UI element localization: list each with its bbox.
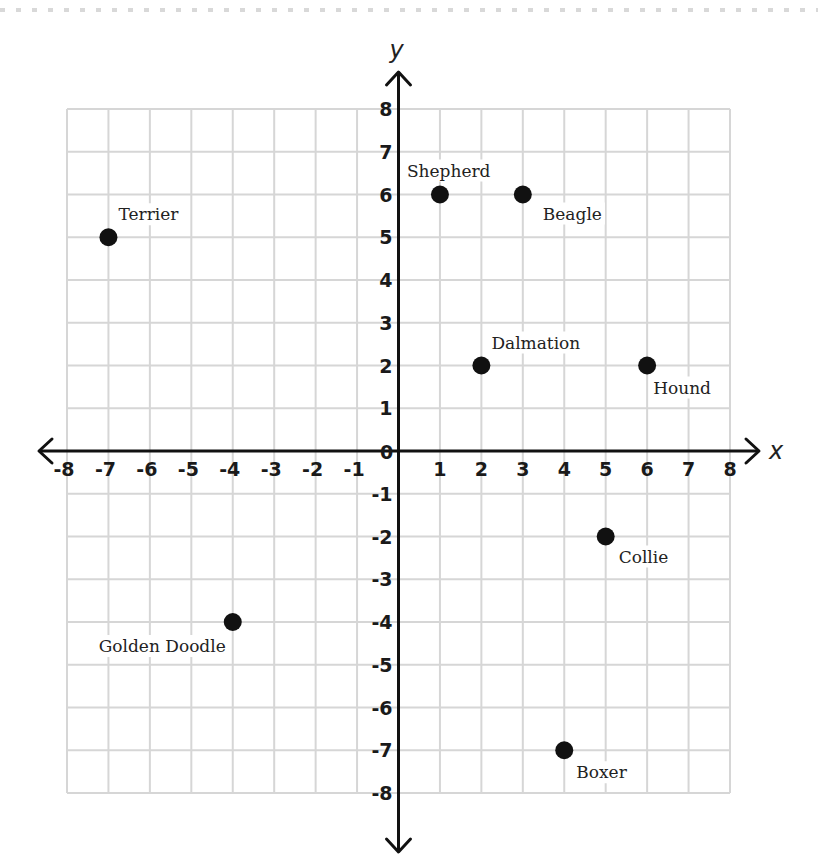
- x-tick-label: -6: [136, 458, 157, 480]
- x-tick-label: -4: [219, 458, 240, 480]
- y-tick-label: -1: [371, 483, 392, 505]
- y-tick-label: 8: [379, 98, 392, 120]
- x-tick-label: 7: [682, 458, 695, 480]
- y-tick-label: -6: [371, 697, 392, 719]
- point-label: Golden Doodle: [99, 636, 226, 656]
- y-tick-label: -2: [371, 526, 392, 548]
- origin-label: 0: [380, 441, 393, 463]
- y-tick-label: 2: [379, 355, 392, 377]
- y-tick-label: -4: [371, 611, 392, 633]
- x-tick-label: -8: [53, 458, 74, 480]
- x-tick-label: -3: [261, 458, 282, 480]
- data-point: [431, 186, 449, 204]
- x-tick-label: 3: [516, 458, 529, 480]
- y-tick-label: -7: [371, 739, 392, 761]
- y-tick-label: 6: [379, 184, 392, 206]
- y-tick-label: -3: [371, 568, 392, 590]
- data-point: [555, 741, 573, 759]
- data-point: [472, 357, 490, 375]
- y-tick-label: 7: [379, 141, 392, 163]
- x-tick-label: -5: [178, 458, 199, 480]
- coordinate-plane: yx-8-7-6-5-4-3-2-101234567887654321-1-2-…: [0, 0, 818, 860]
- point-label: Terrier: [118, 204, 179, 224]
- point-label: Beagle: [543, 204, 602, 224]
- x-axis-label: x: [768, 437, 784, 465]
- point-label: Shepherd: [407, 161, 491, 181]
- data-point: [597, 528, 615, 546]
- x-tick-label: 5: [599, 458, 612, 480]
- data-point: [638, 357, 656, 375]
- x-tick-label: -7: [95, 458, 116, 480]
- data-point: [224, 613, 242, 631]
- y-tick-label: -8: [371, 782, 392, 804]
- y-tick-label: 4: [379, 269, 392, 291]
- point-label: Hound: [653, 378, 711, 398]
- x-tick-label: 1: [433, 458, 446, 480]
- point-label: Collie: [619, 547, 669, 567]
- x-tick-label: -2: [302, 458, 323, 480]
- data-point: [99, 228, 117, 246]
- y-axis-label: y: [388, 36, 404, 64]
- data-point: [514, 186, 532, 204]
- y-tick-label: -5: [371, 654, 392, 676]
- point-label: Boxer: [576, 762, 627, 782]
- y-tick-label: 1: [379, 397, 392, 419]
- x-tick-label: 2: [475, 458, 488, 480]
- point-label: Dalmation: [491, 333, 580, 353]
- y-tick-label: 3: [379, 312, 392, 334]
- x-tick-label: 8: [723, 458, 736, 480]
- x-tick-label: 6: [641, 458, 654, 480]
- x-tick-label: 4: [558, 458, 571, 480]
- x-tick-label: -1: [344, 458, 365, 480]
- y-tick-label: 5: [379, 226, 392, 248]
